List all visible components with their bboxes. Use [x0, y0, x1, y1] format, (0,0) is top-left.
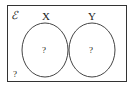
- set-y-value: ?: [89, 45, 93, 55]
- universal-set-symbol: ℰ: [11, 9, 19, 21]
- set-y-label: Y: [88, 10, 96, 22]
- set-x-value: ?: [42, 45, 46, 55]
- set-x-label: X: [42, 10, 50, 22]
- venn-diagram: ℰ X Y ? ? ?: [0, 0, 132, 88]
- outside-value: ?: [13, 69, 17, 79]
